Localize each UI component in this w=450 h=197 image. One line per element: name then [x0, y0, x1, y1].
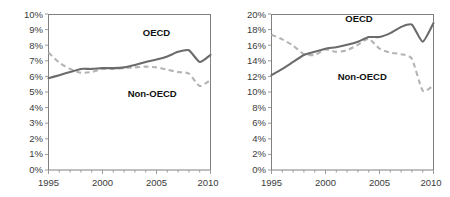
y-tick-label: 2%: [29, 133, 43, 144]
x-tick-label: 1995: [261, 177, 282, 188]
x-tick-label: 2005: [146, 177, 167, 188]
y-tick-label: 14%: [247, 55, 267, 66]
y-tick-label: 1%: [29, 148, 43, 159]
y-tick-label: 5%: [29, 86, 43, 97]
y-tick-label: 20%: [247, 9, 267, 20]
right-x-axis-labels: 1995 2000 2005 2010: [261, 177, 442, 188]
x-tick-label: 2000: [315, 177, 336, 188]
chart-panel-right: 20% 18% 16% 14% 12% 10% 8% 6% 4% 2% 0%: [225, 0, 450, 197]
series-label-oecd: OECD: [345, 13, 373, 24]
left-y-tick-marks: [45, 14, 48, 170]
x-tick-label: 1995: [38, 177, 59, 188]
y-tick-label: 0%: [252, 164, 266, 175]
x-tick-label: 2010: [197, 177, 218, 188]
y-tick-label: 10%: [24, 9, 44, 20]
left-y-axis-labels: 10% 9% 8% 7% 6% 5% 4% 3% 2% 1% 0%: [24, 9, 44, 175]
right-plot-frame: [272, 15, 434, 171]
dual-line-chart-figure: 10% 9% 8% 7% 6% 5% 4% 3% 2% 1% 0%: [0, 0, 450, 197]
left-chart-svg: 10% 9% 8% 7% 6% 5% 4% 3% 2% 1% 0%: [0, 0, 225, 197]
chart-panel-left: 10% 9% 8% 7% 6% 5% 4% 3% 2% 1% 0%: [0, 0, 225, 197]
y-tick-label: 3%: [29, 117, 43, 128]
y-tick-label: 10%: [247, 86, 267, 97]
x-tick-label: 2005: [369, 177, 390, 188]
left-x-tick-marks: [49, 170, 211, 174]
y-tick-label: 18%: [247, 24, 267, 35]
y-tick-label: 8%: [252, 102, 266, 113]
left-x-axis-labels: 1995 2000 2005 2010: [38, 177, 219, 188]
x-tick-label: 2000: [92, 177, 113, 188]
right-y-tick-marks: [268, 14, 271, 170]
series-label-oecd: OECD: [143, 27, 171, 38]
right-x-tick-marks: [272, 170, 434, 174]
series-label-non-oecd: Non-OECD: [338, 71, 387, 82]
y-tick-label: 4%: [252, 133, 266, 144]
y-tick-label: 7%: [29, 55, 43, 66]
series-line-non-oecd: [49, 53, 211, 86]
series-line-oecd: [49, 50, 211, 78]
y-tick-label: 6%: [29, 71, 43, 82]
right-chart-svg: 20% 18% 16% 14% 12% 10% 8% 6% 4% 2% 0%: [225, 0, 450, 197]
y-tick-label: 12%: [247, 71, 267, 82]
x-tick-label: 2010: [420, 177, 441, 188]
y-tick-label: 6%: [252, 117, 266, 128]
y-tick-label: 2%: [252, 148, 266, 159]
y-tick-label: 0%: [29, 164, 43, 175]
y-tick-label: 4%: [29, 102, 43, 113]
y-tick-label: 9%: [29, 24, 43, 35]
y-tick-label: 8%: [29, 40, 43, 51]
right-y-axis-labels: 20% 18% 16% 14% 12% 10% 8% 6% 4% 2% 0%: [247, 9, 267, 175]
y-tick-label: 16%: [247, 40, 267, 51]
series-label-non-oecd: Non-OECD: [128, 88, 177, 99]
